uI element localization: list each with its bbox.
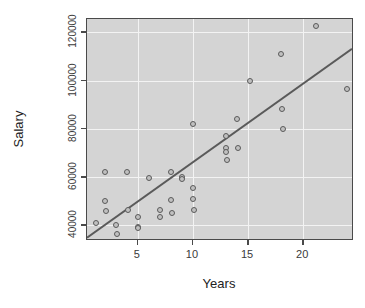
- x-axis-tick: [192, 240, 194, 245]
- data-point: [191, 207, 197, 213]
- y-axis-title: Salary: [11, 111, 26, 148]
- x-axis-tick: [302, 240, 304, 245]
- data-point: [103, 208, 109, 214]
- data-point: [223, 149, 229, 155]
- data-point: [124, 169, 130, 175]
- data-point: [102, 169, 108, 175]
- data-point: [157, 207, 163, 213]
- data-point: [313, 23, 319, 29]
- gridline-horizontal: [87, 81, 352, 82]
- y-axis-tick-label: 80000: [67, 114, 78, 142]
- gridline-horizontal: [87, 129, 352, 130]
- data-point: [113, 222, 119, 228]
- x-axis-tick: [137, 240, 139, 245]
- data-point: [344, 86, 350, 92]
- y-axis-tick-label: 40000: [67, 210, 78, 238]
- x-axis-tick: [247, 240, 249, 245]
- scatter-plot-figure: Salary Years 400006000080000100000120000…: [0, 0, 365, 308]
- data-point: [93, 220, 99, 226]
- data-point: [280, 126, 286, 132]
- y-axis-tick: [81, 128, 86, 130]
- x-axis-tick-label: 20: [296, 248, 308, 260]
- y-axis-tick-label: 120000: [67, 15, 78, 48]
- data-point: [190, 121, 196, 127]
- x-axis-tick-label: 10: [186, 248, 198, 260]
- data-point: [146, 175, 152, 181]
- data-point: [235, 145, 241, 151]
- data-point: [135, 225, 141, 231]
- data-point: [168, 197, 174, 203]
- y-axis-tick: [81, 176, 86, 178]
- data-point: [190, 185, 196, 191]
- gridline-horizontal: [87, 32, 352, 33]
- data-point: [169, 210, 175, 216]
- y-axis-tick: [81, 31, 86, 33]
- data-point: [114, 231, 120, 237]
- data-point: [224, 157, 230, 163]
- y-axis-tick: [81, 80, 86, 82]
- data-point: [179, 176, 185, 182]
- gridline-horizontal: [87, 177, 352, 178]
- y-axis-tick-label: 100000: [67, 63, 78, 96]
- x-axis-title: Years: [203, 276, 236, 291]
- data-point: [223, 133, 229, 139]
- data-point: [102, 198, 108, 204]
- data-point: [190, 196, 196, 202]
- data-point: [135, 214, 141, 220]
- data-point: [157, 214, 163, 220]
- data-point: [234, 116, 240, 122]
- data-point: [168, 169, 174, 175]
- data-point: [247, 78, 253, 84]
- x-axis-tick-label: 5: [134, 248, 140, 260]
- x-axis-tick-label: 15: [241, 248, 253, 260]
- gridline-horizontal: [87, 225, 352, 226]
- data-point: [279, 106, 285, 112]
- data-point: [125, 207, 131, 213]
- y-axis-tick-label: 60000: [67, 162, 78, 190]
- plot-panel: [86, 18, 353, 240]
- y-axis-tick: [81, 224, 86, 226]
- data-point: [278, 51, 284, 57]
